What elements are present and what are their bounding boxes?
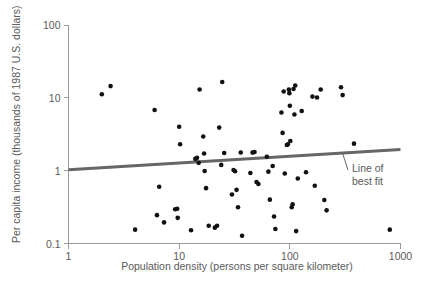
data-point <box>288 139 293 144</box>
data-point <box>189 228 194 233</box>
data-point <box>197 87 202 92</box>
chart-figure: Per capita income (thousands of 1987 U.S… <box>0 0 426 281</box>
y-tick-label: 0.1 <box>46 238 61 250</box>
data-point <box>387 227 392 232</box>
data-point <box>201 134 206 139</box>
data-point <box>108 84 113 89</box>
x-axis-ticks: 1101001000 <box>66 244 413 262</box>
data-point <box>295 176 300 181</box>
data-point <box>157 185 162 190</box>
data-point <box>288 103 293 108</box>
data-point <box>175 216 180 221</box>
data-point <box>299 109 304 114</box>
data-point <box>312 183 317 188</box>
data-point <box>282 171 287 176</box>
data-point <box>310 94 315 99</box>
data-point <box>178 142 183 147</box>
data-point <box>322 198 327 203</box>
data-point <box>219 163 224 168</box>
data-point <box>204 186 209 191</box>
x-tick-label: 10 <box>173 250 185 262</box>
fit-line-stroke <box>69 150 401 170</box>
data-point <box>195 156 200 161</box>
data-point <box>287 91 292 96</box>
data-point <box>240 233 245 238</box>
y-tick-label: 10 <box>49 92 61 104</box>
data-point <box>220 80 225 85</box>
line-of-best-fit <box>69 150 401 170</box>
data-point <box>304 170 309 175</box>
data-point <box>339 85 344 90</box>
data-point <box>252 150 257 155</box>
data-point <box>268 197 273 202</box>
x-tick-label: 1 <box>66 250 72 262</box>
data-point <box>215 223 220 228</box>
y-axis-ticks: 0.1110100 <box>43 19 69 250</box>
data-point <box>236 205 241 210</box>
y-tick-label: 1 <box>55 165 61 177</box>
data-point <box>293 83 298 88</box>
data-point <box>152 108 157 113</box>
x-tick-label: 100 <box>281 250 299 262</box>
data-point <box>234 188 239 193</box>
data-point <box>265 155 270 160</box>
data-point <box>238 150 243 155</box>
data-point <box>279 110 284 115</box>
data-point <box>155 213 160 218</box>
data-point <box>324 208 329 213</box>
data-point <box>175 206 180 211</box>
data-point <box>281 89 286 94</box>
annotation-label-line1: Line of <box>352 162 384 174</box>
data-point <box>233 169 238 174</box>
data-point <box>318 87 323 92</box>
data-point <box>256 182 261 187</box>
annotation-leader-line <box>343 154 348 170</box>
data-point <box>315 95 320 100</box>
annotation-line-of-best-fit: Line of best fit <box>343 154 384 187</box>
data-point <box>202 151 207 156</box>
y-axis-title: Per capita income (thousands of 1987 U.S… <box>10 5 22 243</box>
data-point <box>280 131 285 136</box>
scatter-plot: Per capita income (thousands of 1987 U.S… <box>0 0 426 281</box>
data-point <box>340 93 345 98</box>
data-point <box>202 169 207 174</box>
data-point <box>273 227 278 232</box>
data-point <box>292 112 297 117</box>
data-point <box>352 141 357 146</box>
x-tick-label: 1000 <box>389 250 413 262</box>
y-tick-label: 100 <box>43 19 61 31</box>
data-point <box>294 229 299 234</box>
data-point <box>206 223 211 228</box>
data-point <box>100 92 105 97</box>
x-axis-title: Population density (persons per square k… <box>121 260 353 272</box>
data-point <box>162 220 167 225</box>
data-point <box>290 202 295 207</box>
data-point <box>177 125 182 130</box>
data-point <box>270 164 275 169</box>
annotation-label-line2: best fit <box>352 175 383 187</box>
data-point <box>272 214 277 219</box>
data-point <box>196 161 201 166</box>
data-point <box>217 125 222 130</box>
data-point <box>248 171 253 176</box>
data-point <box>133 227 138 232</box>
data-point <box>266 169 271 174</box>
data-point <box>222 151 227 156</box>
data-point <box>230 192 235 197</box>
